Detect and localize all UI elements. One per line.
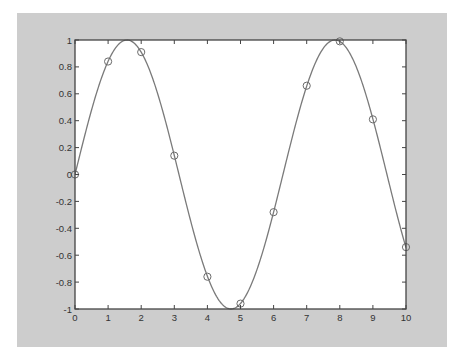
y-tick-label: 0.6	[59, 88, 72, 99]
y-tick-label: -0.6	[56, 250, 72, 261]
x-tick-label: 7	[304, 312, 309, 323]
plot-axes: 012345678910-1-0.8-0.6-0.4-0.200.20.40.6…	[56, 35, 412, 324]
x-tick-label: 9	[370, 312, 375, 323]
y-tick-label: 0	[67, 169, 72, 180]
y-tick-label: -0.8	[56, 277, 72, 288]
y-tick-label: 0.4	[59, 115, 72, 126]
x-tick-label: 0	[72, 312, 77, 323]
x-tick-label: 10	[401, 312, 412, 323]
x-tick-label: 5	[238, 312, 243, 323]
x-tick-label: 8	[337, 312, 342, 323]
y-tick-label: -0.4	[56, 223, 72, 234]
y-tick-label: -1	[64, 304, 72, 315]
y-tick-label: 0.2	[59, 142, 72, 153]
x-tick-label: 6	[271, 312, 276, 323]
y-tick-label: -0.2	[56, 196, 72, 207]
x-tick-label: 2	[139, 312, 144, 323]
y-tick-label: 0.8	[59, 61, 72, 72]
x-tick-label: 1	[105, 312, 110, 323]
x-tick-label: 3	[172, 312, 177, 323]
x-tick-label: 4	[205, 312, 210, 323]
figure-window: 012345678910-1-0.8-0.6-0.4-0.200.20.40.6…	[17, 13, 447, 347]
sine-plot-chart: 012345678910-1-0.8-0.6-0.4-0.200.20.40.6…	[17, 13, 447, 347]
plot-area	[75, 40, 406, 309]
y-tick-label: 1	[67, 35, 72, 46]
